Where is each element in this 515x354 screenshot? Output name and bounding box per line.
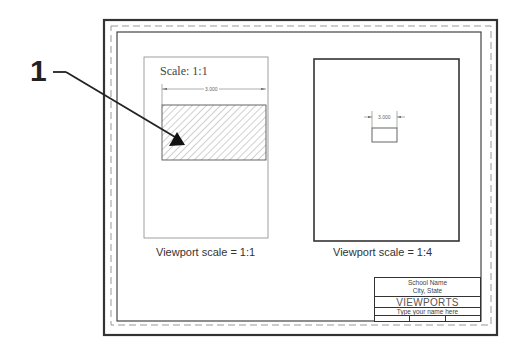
- student-name-field[interactable]: Type your name here: [375, 308, 480, 316]
- left-dimension-text: 3.000: [204, 86, 219, 92]
- hatched-rectangle[interactable]: [162, 105, 266, 160]
- left-viewport-caption: Viewport scale = 1:1: [156, 246, 255, 258]
- small-rectangle[interactable]: [372, 128, 397, 142]
- drawing-title: VIEWPORTS: [375, 297, 480, 308]
- left-viewport-scale-label: Scale: 1:1: [160, 64, 208, 79]
- title-block-info-row: [375, 316, 480, 322]
- right-dimension-text: 3.000: [377, 114, 392, 120]
- title-block: School Name City, State VIEWPORTS Type y…: [374, 277, 481, 322]
- info-cell-1: [375, 316, 410, 322]
- right-viewport-caption: Viewport scale = 1:4: [333, 246, 432, 258]
- callout-number: 1: [30, 56, 47, 86]
- title-block-school: School Name City, State: [375, 278, 480, 297]
- info-cell-2: [410, 316, 445, 322]
- city-state: City, State: [375, 287, 480, 295]
- right-viewport[interactable]: [314, 59, 459, 241]
- info-cell-3: [446, 316, 480, 322]
- school-name: School Name: [375, 279, 480, 287]
